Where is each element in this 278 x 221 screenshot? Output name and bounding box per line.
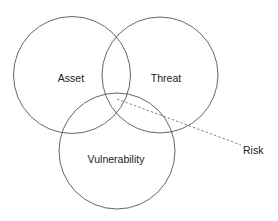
asset-label: Asset bbox=[58, 72, 84, 84]
venn-diagram: Asset Threat Vulnerability Risk bbox=[0, 0, 278, 221]
vulnerability-circle bbox=[59, 93, 175, 209]
threat-label: Threat bbox=[151, 72, 181, 84]
vulnerability-label: Vulnerability bbox=[88, 153, 146, 165]
risk-callout-line bbox=[117, 99, 241, 145]
risk-label: Risk bbox=[243, 144, 264, 156]
venn-svg: Asset Threat Vulnerability Risk bbox=[0, 0, 278, 221]
